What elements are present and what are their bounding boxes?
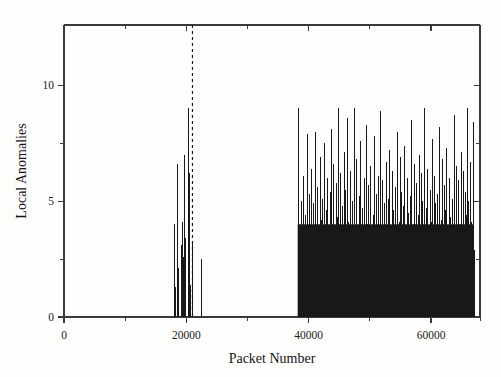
y-tick-label: 5 <box>48 195 54 207</box>
y-tick-label: 10 <box>43 79 55 91</box>
x-tick-label: 20000 <box>172 329 201 341</box>
y-axis-title: Local Anomalies <box>14 123 29 218</box>
x-axis-title: Packet Number <box>229 351 316 366</box>
y-tick-label: 0 <box>48 311 54 323</box>
x-tick-label: 60000 <box>417 329 446 341</box>
chart-canvas: 02000040000600000510Packet NumberLocal A… <box>0 0 501 377</box>
x-tick-label: 0 <box>61 329 67 341</box>
x-tick-label: 40000 <box>294 329 323 341</box>
data-series-group <box>175 108 475 317</box>
anomaly-spike-chart: 02000040000600000510Packet NumberLocal A… <box>0 0 501 377</box>
